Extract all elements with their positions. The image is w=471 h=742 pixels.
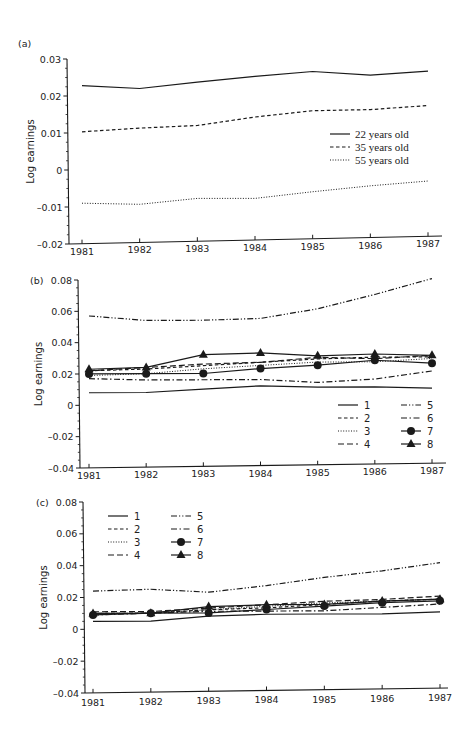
x-tick-label: 1986 xyxy=(363,466,387,477)
series-line xyxy=(89,279,432,321)
series-circle-marker xyxy=(142,370,150,378)
legend-triangle-marker xyxy=(177,550,186,558)
series-line xyxy=(82,71,428,88)
x-tick-label: 1984 xyxy=(243,242,267,253)
legend-circle-marker xyxy=(177,538,185,546)
x-tick-label: 1983 xyxy=(197,695,221,706)
x-tick-label: 1987 xyxy=(416,238,440,249)
y-tick-label: 0.01 xyxy=(41,128,62,139)
y-tick-label: 0.02 xyxy=(40,91,61,102)
series-7 xyxy=(85,356,436,378)
legend: 12345678 xyxy=(108,511,203,561)
legend-label: 1 xyxy=(134,511,140,522)
series-triangle-marker xyxy=(85,364,94,372)
x-tick-label: 1987 xyxy=(428,692,452,703)
series-triangle-marker xyxy=(378,596,387,604)
series-5 xyxy=(93,563,440,593)
x-tick-label: 1984 xyxy=(248,468,272,479)
legend-label: 7 xyxy=(197,537,203,548)
x-tick-label: 1982 xyxy=(134,469,158,480)
legend: 22 years old35 years old55 years old xyxy=(330,128,409,166)
legend-label: 4 xyxy=(134,550,140,561)
panel-label: (a) xyxy=(18,38,31,49)
x-tick-label: 1985 xyxy=(301,241,325,252)
y-tick-label: –0.02 xyxy=(37,239,63,250)
series-1 xyxy=(89,386,432,393)
x-tick-label: 1985 xyxy=(306,467,330,478)
series-line xyxy=(89,386,432,393)
legend-circle-marker xyxy=(407,427,415,435)
legend-label: 4 xyxy=(364,439,370,450)
legend-label: 5 xyxy=(427,400,433,411)
y-axis-title: Log earnings xyxy=(25,119,36,183)
legend-label: 1 xyxy=(364,400,370,411)
series-circle-marker xyxy=(205,609,213,617)
x-tick-label: 1983 xyxy=(185,243,209,254)
panel-label: (c) xyxy=(36,497,49,508)
legend-label: 7 xyxy=(427,426,433,437)
y-tick-label: 0.02 xyxy=(52,369,73,380)
x-tick-label: 1983 xyxy=(191,468,215,479)
series-line xyxy=(89,371,432,382)
y-tick-label: 0.03 xyxy=(40,54,61,65)
legend-label: 3 xyxy=(364,426,370,437)
y-tick-label: –0.04 xyxy=(48,463,74,474)
y-tick-label: 0.02 xyxy=(57,592,78,603)
x-tick-label: 1981 xyxy=(77,470,101,481)
y-tick-label: –0.02 xyxy=(48,431,74,442)
legend-label: 3 xyxy=(134,537,140,548)
series-circle-marker xyxy=(257,365,265,373)
legend-label: 6 xyxy=(427,413,433,424)
legend-label: 55 years old xyxy=(355,154,409,166)
legend-label: 22 years old xyxy=(355,128,409,140)
x-tick-label: 1987 xyxy=(420,465,444,476)
legend-label: 2 xyxy=(364,413,370,424)
legend-triangle-marker xyxy=(407,439,416,447)
y-tick-label: 0.08 xyxy=(56,497,77,508)
legend-label: 2 xyxy=(134,524,140,535)
series-triangle-marker xyxy=(428,350,437,358)
series-triangle-marker xyxy=(89,608,98,616)
chart-panel-a: (a)0.030.020.010–0.01–0.02Log earnings19… xyxy=(18,38,442,257)
series-line xyxy=(82,181,428,204)
x-tick-label: 1986 xyxy=(358,240,382,251)
y-tick-label: 0.08 xyxy=(51,275,72,286)
series-circle-marker xyxy=(428,359,436,367)
legend-label: 5 xyxy=(197,511,203,522)
series-triangle-marker xyxy=(204,602,213,610)
y-axis-title: Log earnings xyxy=(38,565,49,629)
y-tick-label: 0 xyxy=(67,400,73,411)
legend-label: 8 xyxy=(197,550,203,561)
y-tick-label: 0.04 xyxy=(57,560,78,571)
legend: 12345678 xyxy=(338,400,433,450)
series-circle-marker xyxy=(314,361,322,369)
chart-panel-c: (c)0.080.060.040.020–0.02–0.04Log earnin… xyxy=(36,497,452,708)
y-tick-label: 0 xyxy=(56,165,62,176)
series-triangle-marker xyxy=(370,349,379,357)
series-circle-marker xyxy=(199,369,207,377)
chart-panel-b: (b)0.080.060.040.020–0.02–0.04Log earnin… xyxy=(30,275,446,481)
y-tick-label: –0.04 xyxy=(53,688,79,699)
y-tick-label: –0.02 xyxy=(53,656,79,667)
y-tick-label: –0.01 xyxy=(37,202,63,213)
series-triangle-marker xyxy=(262,600,271,608)
series-6 xyxy=(89,371,432,382)
series-triangle-marker xyxy=(199,350,208,358)
series-22-years-old xyxy=(82,71,428,88)
series-triangle-marker xyxy=(256,348,265,356)
series-line xyxy=(93,563,440,593)
x-tick-label: 1982 xyxy=(128,244,152,255)
y-tick-label: 0 xyxy=(72,624,78,635)
legend-label: 8 xyxy=(427,439,433,450)
y-tick-label: 0.04 xyxy=(52,337,73,348)
y-axis-title: Log earnings xyxy=(33,342,44,406)
y-tick-label: 0.06 xyxy=(51,306,72,317)
series-55-years-old xyxy=(82,181,428,204)
panel-label: (b) xyxy=(30,275,43,286)
series-triangle-marker xyxy=(313,351,322,359)
figure: (a)0.030.020.010–0.01–0.02Log earnings19… xyxy=(0,0,471,742)
x-tick-label: 1984 xyxy=(254,694,278,705)
x-tick-label: 1985 xyxy=(312,694,336,705)
y-tick-label: 0.06 xyxy=(56,528,77,539)
series-circle-marker xyxy=(371,356,379,364)
